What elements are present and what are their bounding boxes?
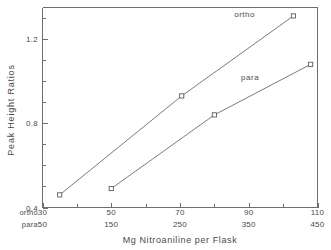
data-series-para — [109, 62, 313, 190]
data-point-marker — [109, 186, 113, 190]
series-line-para — [111, 64, 310, 188]
x-tick-label-para: 150 — [104, 220, 118, 229]
data-point-marker — [58, 193, 62, 197]
x-tick-label-para: 250 — [173, 220, 187, 229]
x-axis-title: Mg Nitroaniline per Flask — [123, 235, 238, 245]
chart-figure: 0.40.81.2 30507090110 50150250350450 ort… — [0, 0, 331, 250]
x-tick-label-para: 350 — [242, 220, 256, 229]
data-point-marker — [180, 94, 184, 98]
x-tick-label-ortho: 90 — [244, 208, 254, 217]
data-series-ortho — [58, 14, 296, 197]
chart-canvas: 0.40.81.2 30507090110 50150250350450 ort… — [0, 0, 331, 250]
x-tick-label-para: 50 — [38, 220, 48, 229]
x-tick-label-ortho: 110 — [311, 208, 325, 217]
x-tick-label-ortho: 30 — [38, 208, 48, 217]
y-axis-tick-labels: 0.40.81.2 — [26, 35, 38, 212]
x-axis-row-key-ortho: ortho — [19, 208, 38, 217]
y-tick-label: 0.8 — [26, 119, 38, 128]
frame-path — [43, 8, 318, 208]
plot-frame — [43, 8, 318, 208]
x-axis-row-key-para: para — [22, 220, 39, 229]
y-axis-title: Peak Height Ratios — [6, 64, 16, 155]
x-tick-label-ortho: 70 — [175, 208, 185, 217]
y-axis-ticks — [43, 19, 48, 209]
data-point-marker — [291, 14, 295, 18]
series-line-ortho — [60, 16, 294, 195]
y-tick-label: 1.2 — [26, 35, 38, 44]
x-axis-ticks — [44, 203, 319, 208]
x-tick-label-ortho: 50 — [107, 208, 117, 217]
series-annotation-para: para — [241, 73, 259, 82]
x-axis-tick-labels-ortho: 30507090110 — [38, 208, 325, 217]
data-series-group — [58, 14, 313, 197]
x-axis-tick-labels-para: 50150250350450 — [38, 220, 325, 229]
data-point-marker — [309, 62, 313, 66]
series-annotation-ortho: ortho — [234, 10, 255, 19]
series-annotations-group: orthopara — [234, 10, 259, 82]
data-point-marker — [212, 113, 216, 117]
x-tick-label-para: 450 — [310, 220, 324, 229]
